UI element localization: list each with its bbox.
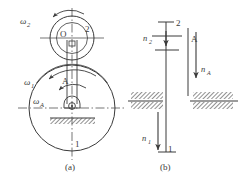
gear2-number-label-b: 2 — [176, 18, 181, 28]
nA-symbol: n — [201, 64, 205, 74]
omegaA-symbol: ω — [33, 96, 39, 106]
nA-label: n A — [201, 64, 211, 76]
n2-symbol: n — [143, 33, 147, 43]
omega1-arc-arrow — [49, 70, 96, 79]
omega2-label: ω 2 — [20, 16, 31, 28]
omega1-subscript: 1 — [31, 82, 34, 89]
omegaA-label: ω A — [33, 96, 44, 108]
omega1-symbol: ω — [24, 77, 30, 87]
diagram-canvas: ω 2 2 O ω 1 ω A A 1 (a) — [0, 0, 244, 182]
center-O-label: O — [60, 29, 67, 39]
caption-b: (b) — [160, 162, 171, 172]
ground-hatch-b-right-upper — [193, 92, 233, 99]
n1-label: n 1 — [142, 133, 151, 145]
omega2-symbol: ω — [20, 16, 26, 26]
panel-b-group: 2 n 2 A n A n 1 1 (b) — [128, 18, 238, 172]
panel-a-group: ω 2 2 O ω 1 ω A A 1 (a) — [18, 8, 126, 172]
ground-hatch-b-left-lower — [131, 102, 163, 109]
ground-hatch-a — [50, 118, 95, 124]
shaft-center-dot — [71, 105, 73, 107]
ground-hatch-b-right-lower — [193, 102, 233, 109]
gear1-number-label-b: 1 — [168, 144, 173, 154]
gear2-number-label: 2 — [85, 24, 90, 34]
n2-label: n 2 — [143, 33, 152, 45]
caption-a: (a) — [65, 162, 75, 172]
carrier-A-label-b: A — [191, 34, 198, 44]
n1-symbol: n — [142, 133, 146, 143]
omega2-subscript: 2 — [27, 21, 31, 28]
n1-subscript: 1 — [148, 139, 151, 145]
n2-subscript: 2 — [149, 39, 152, 45]
gear1-number-label: 1 — [75, 139, 80, 149]
omega1-label: ω 1 — [24, 77, 34, 89]
nA-subscript: A — [206, 70, 211, 76]
omegaA-subscript: A — [39, 101, 44, 108]
figure-root: ω 2 2 O ω 1 ω A A 1 (a) — [0, 0, 244, 182]
carrier-A-label: A — [62, 76, 69, 86]
ground-hatch-b-left-upper — [131, 92, 163, 99]
